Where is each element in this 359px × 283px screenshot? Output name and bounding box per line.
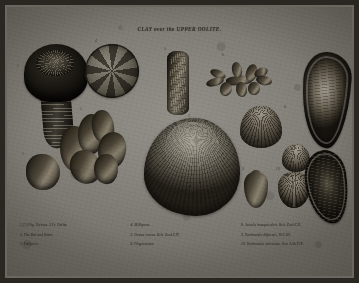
rod-texture [170, 53, 186, 113]
bivalve-umbo [165, 122, 219, 165]
figure-number-8: 8. [284, 105, 286, 109]
bivalve-body [144, 118, 240, 216]
figure-number-9: 9. [242, 167, 244, 171]
coral-branch [247, 81, 261, 96]
caption-column-1: 1,2,3.Fig. Tortosa. 3.Fr. Oolite. 2. The… [20, 223, 130, 263]
figure-number-10: 10. [276, 167, 280, 171]
specimen-large-bivalve [144, 118, 240, 216]
caption-line: 6. Plagiostoma. [131, 242, 241, 246]
specimen-knobby-coral-mass [58, 110, 130, 188]
plate-paper-field: CLAY over the UPPER OOLITE. 1. 2. 3. [6, 6, 353, 277]
figure-number-3: 3. [22, 152, 24, 156]
specimen-large-oyster [302, 52, 350, 148]
caption-legend: 1,2,3.Fig. Tortosa. 3.Fr. Oolite. 2. The… [20, 223, 345, 263]
caption-column-2: 4. Millepora. 5. Ostrea crassa. Brit. Zo… [131, 223, 241, 263]
caption-line: 8. Avicula inaequivalvis. Brit. Zool.T.I… [241, 223, 345, 227]
scallop-body [240, 106, 282, 148]
specimen-branching-coral [206, 58, 272, 102]
specimen-radiating-disc [85, 44, 139, 98]
figure-number-5: 5. [164, 47, 166, 51]
specimen-dark-oyster [306, 150, 348, 224]
oyster-body [299, 50, 353, 149]
specimen-elongate-fossil [167, 51, 189, 115]
disc-rim [85, 44, 139, 98]
caption-line: 4. Millepora. [131, 223, 241, 227]
caption-column-3: 8. Avicula inaequivalvis. Brit. Zool.T.I… [241, 223, 345, 263]
dark-oyster-body [300, 147, 353, 227]
figure-number-2: 2. [80, 107, 82, 111]
scallop-ribs [240, 106, 282, 148]
caption-line: 2. The Bed and Stone. [20, 233, 130, 237]
caption-line: 9. Terebratula difformis. W.C.III. [241, 233, 345, 237]
figure-number-1: 1. [17, 64, 19, 68]
lump-body [26, 154, 60, 190]
caption-line: 1,2,3.Fig. Tortosa. 3.Fr. Oolite. [20, 223, 130, 227]
specimen-scallop-shell [240, 106, 282, 148]
caption-line: 5. Ostrea crassa. Brit. Zool.T.IV. [131, 233, 241, 237]
ribbed-brachiopod-fold [292, 176, 296, 207]
figure-number-4: 4. [95, 39, 97, 43]
specimen-smooth-brachiopod [244, 172, 268, 208]
figure-number-7: 7. [188, 114, 190, 118]
specimen-rock-lump [26, 154, 60, 190]
engraved-plate: CLAY over the UPPER OOLITE. 1. 2. 3. [0, 0, 359, 283]
page-title: CLAY over the UPPER OOLITE. [6, 26, 353, 32]
caption-line: 3. Tubipora. [20, 242, 130, 246]
caption-line: 10. Terebratula reticulata. Sow. Lith.T.… [241, 242, 345, 246]
figure-number-6: 6. [222, 53, 224, 57]
tube-septa [36, 50, 74, 76]
